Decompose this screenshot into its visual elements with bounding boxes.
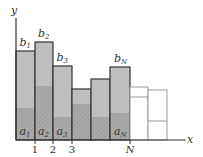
bar-upper-fill	[72, 89, 91, 104]
bar-hatched-fill	[91, 117, 110, 140]
bar	[130, 87, 148, 140]
bar	[72, 89, 91, 140]
x-tick-label: 1	[32, 144, 38, 155]
y-axis-label: y	[10, 4, 18, 17]
ticks-group: 123N	[32, 140, 136, 155]
bar-top-label: bN	[114, 52, 128, 66]
bar-upper-fill	[16, 51, 35, 108]
x-axis-label: x	[187, 133, 194, 146]
bar-top-label: b1	[20, 36, 32, 50]
bar-outline-empty	[148, 90, 167, 140]
bar-upper-fill	[110, 67, 130, 113]
bar	[148, 90, 167, 140]
x-tick-label: N	[125, 144, 136, 155]
bar-upper-fill	[53, 66, 72, 117]
bar-top-label: b3	[57, 51, 69, 65]
bar	[91, 79, 110, 140]
x-tick-label: 2	[50, 144, 56, 155]
x-tick-label: 3	[69, 144, 75, 155]
bar-hatched-fill	[72, 104, 91, 140]
bar-diagram: y x 123N b1a1b2a2b3a3bNaN	[0, 0, 203, 157]
bar-top-label: b2	[38, 27, 50, 41]
bar-outline-empty	[130, 87, 148, 140]
bar-upper-fill	[91, 79, 110, 117]
bar-upper-fill	[35, 42, 53, 86]
